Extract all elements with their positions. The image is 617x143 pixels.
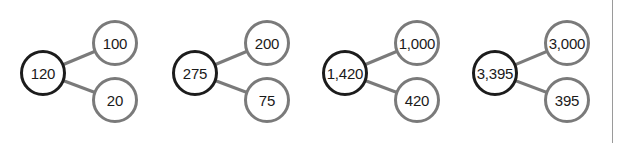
number-bond-3: 1,420 1,000 420 <box>302 0 452 143</box>
number-bond-1: 120 100 20 <box>0 0 150 143</box>
part-value: 395 <box>555 92 579 109</box>
whole-value: 1,420 <box>327 65 364 82</box>
part-circle-bottom: 20 <box>92 77 138 123</box>
whole-circle: 120 <box>20 50 66 96</box>
whole-circle: 275 <box>172 50 218 96</box>
whole-value: 3,395 <box>477 65 514 82</box>
part-circle-bottom: 420 <box>394 77 440 123</box>
part-circle-top: 100 <box>92 20 138 66</box>
part-value: 75 <box>259 92 275 109</box>
part-value: 1,000 <box>399 35 436 52</box>
number-bond-2: 275 200 75 <box>152 0 302 143</box>
part-value: 100 <box>103 35 127 52</box>
whole-circle: 1,420 <box>322 50 368 96</box>
part-circle-bottom: 75 <box>244 77 290 123</box>
whole-value: 275 <box>183 65 207 82</box>
part-circle-top: 3,000 <box>544 20 590 66</box>
part-value: 200 <box>255 35 279 52</box>
part-value: 420 <box>405 92 429 109</box>
number-bond-4: 3,395 3,000 395 <box>452 0 602 143</box>
whole-circle: 3,395 <box>472 50 518 96</box>
whole-value: 120 <box>31 65 55 82</box>
part-circle-top: 200 <box>244 20 290 66</box>
right-border-line <box>612 0 613 143</box>
part-circle-bottom: 395 <box>544 77 590 123</box>
part-value: 20 <box>107 92 123 109</box>
part-value: 3,000 <box>549 35 586 52</box>
part-circle-top: 1,000 <box>394 20 440 66</box>
